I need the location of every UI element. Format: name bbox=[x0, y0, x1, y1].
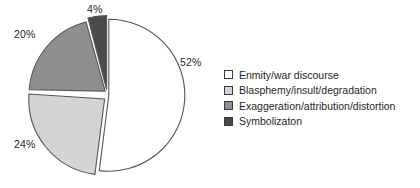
pie-value-label-blasphemy: 24% bbox=[14, 138, 36, 150]
legend-item-label: Enmity/war discourse bbox=[239, 69, 339, 81]
legend-item-label: Symbolizaton bbox=[239, 115, 302, 127]
pie-value-label-enmity: 52% bbox=[180, 56, 202, 68]
legend-swatch-icon bbox=[224, 86, 233, 95]
legend-item-label: Blasphemy/insult/degradation bbox=[239, 84, 377, 96]
pie-slice-blasphemy bbox=[29, 94, 105, 174]
legend-item-enmity: Enmity/war discourse bbox=[224, 68, 395, 81]
chart-legend: Enmity/war discourse Blasphemy/insult/de… bbox=[224, 68, 395, 128]
pie-chart-figure: 52% 24% 20% 4% Enmity/war discourse Blas… bbox=[0, 0, 420, 188]
legend-swatch-icon bbox=[224, 70, 233, 79]
pie-value-label-exaggeration: 20% bbox=[14, 28, 36, 40]
legend-swatch-icon bbox=[224, 117, 233, 126]
legend-item-label: Exaggeration/attribution/distortion bbox=[239, 100, 395, 112]
legend-swatch-icon bbox=[224, 101, 233, 110]
legend-item-exaggeration: Exaggeration/attribution/distortion bbox=[224, 99, 395, 112]
pie-slice-enmity bbox=[99, 19, 185, 171]
pie-value-label-symbolization: 4% bbox=[87, 3, 103, 15]
pie-plot-area: 52% 24% 20% 4% bbox=[0, 0, 215, 188]
legend-item-blasphemy: Blasphemy/insult/degradation bbox=[224, 84, 395, 97]
legend-item-symbolization: Symbolizaton bbox=[224, 115, 395, 128]
